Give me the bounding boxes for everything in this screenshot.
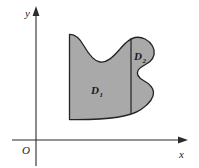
- region-label-d1-base: D: [90, 84, 99, 96]
- figure-canvas: D 1 D 2 y x O: [0, 0, 199, 168]
- origin-label: O: [22, 144, 30, 156]
- region-label-d2-subscript: 2: [142, 57, 147, 65]
- x-axis-label: x: [178, 148, 184, 160]
- region-label-d2-base: D: [133, 50, 142, 62]
- region-label-d1-subscript: 1: [100, 91, 104, 99]
- y-axis-label: y: [24, 7, 30, 19]
- math-figure: D 1 D 2 y x O: [0, 0, 199, 168]
